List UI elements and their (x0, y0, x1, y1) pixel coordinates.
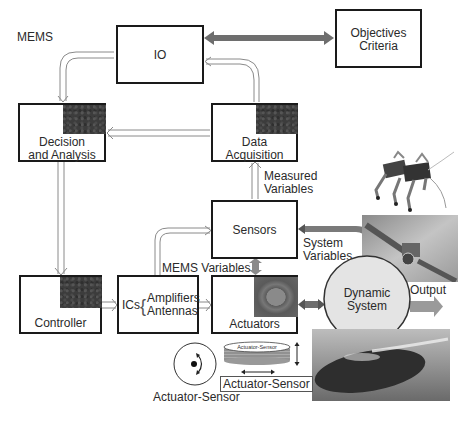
actuators-dynamic-arrow (298, 299, 325, 310)
actuator-sensor-boxed-label: Actuator-Sensor (220, 376, 313, 392)
robot-insect-image (368, 150, 458, 215)
controller-label: Controller (21, 317, 100, 330)
data-acquisition-texture-patch (256, 105, 298, 134)
data-acquisition-to-io-arrow (205, 57, 259, 102)
actuators-box: Actuators (211, 275, 298, 334)
controller-texture-patch (60, 277, 102, 308)
ics-to-actuators-arrow (199, 299, 211, 311)
io-box: IO (116, 25, 204, 84)
acquisition-label: Acquisition (213, 149, 296, 162)
controller-to-ics-arrow (102, 299, 117, 311)
submarine-image (312, 329, 450, 401)
actuator-sensor-stack-icon: Actuator-Sensor (222, 341, 302, 371)
io-to-decision-arrow (58, 52, 114, 102)
diagram-title: MEMS (17, 31, 53, 44)
measured-variables-label-2: Variables (264, 183, 313, 196)
antennas-label: Antennas (147, 305, 198, 318)
ics-box: ICs { Amplifiers Antennas (117, 275, 199, 334)
output-arrow (410, 296, 443, 317)
decision-texture-patch (63, 105, 106, 134)
brace-icon: { (140, 291, 146, 321)
data-acquisition-to-decision-arrow (107, 127, 210, 139)
sensors-box: Sensors (211, 200, 298, 259)
stack-disk-label: Actuator-Sensor (237, 344, 277, 350)
mems-diagram: MEMS IO Objectives Criteria Decision and… (0, 0, 469, 421)
sensors-actuators-arrow (249, 258, 262, 275)
mems-variables-label: MEMS Variables (162, 262, 250, 275)
sensors-to-data-acquisition-arrow (249, 162, 261, 199)
output-label: Output (410, 284, 446, 297)
io-label: IO (118, 49, 202, 62)
analysis-label: and Analysis (20, 149, 104, 162)
criteria-label: Criteria (337, 40, 420, 53)
system-label: System (322, 300, 412, 313)
data-acquisition-box: Data Acquisition (211, 103, 298, 162)
actuator-disk-image (254, 277, 298, 317)
actuator-sensor-rotary-icon (172, 341, 218, 387)
horizontal-double-arrow-icon (240, 368, 276, 376)
decision-to-controller-arrow (55, 162, 67, 275)
objectives-criteria-box: Objectives Criteria (335, 9, 422, 68)
io-objectives-arrow (204, 31, 334, 45)
actuator-sensor-label-rotary: Actuator-Sensor (153, 391, 240, 404)
actuators-label: Actuators (213, 318, 296, 331)
controller-box: Controller (19, 275, 102, 334)
sensors-label: Sensors (213, 224, 296, 237)
ics-label: ICs (122, 299, 140, 312)
decision-analysis-box: Decision and Analysis (18, 103, 106, 162)
